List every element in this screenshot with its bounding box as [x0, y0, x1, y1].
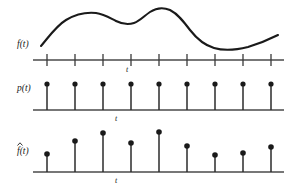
signal-label-fhat: f(t)	[17, 146, 29, 157]
impulse-stem	[100, 81, 105, 110]
axis-label-p: t	[115, 114, 118, 123]
impulse-stem	[240, 81, 245, 110]
impulse-stem	[156, 81, 161, 110]
sample-stem	[212, 152, 218, 172]
sample-stem	[268, 144, 274, 172]
axis-label-f: t	[126, 65, 129, 74]
waveform-curve-f	[41, 8, 278, 50]
signal-label-f: f(t)	[17, 39, 29, 50]
signal-label-p: p(t)	[16, 83, 31, 94]
sample-stem	[100, 130, 106, 172]
axis-label-fhat: t	[115, 176, 118, 185]
sampling-figure: f(t) t	[0, 0, 287, 195]
impulse-stem	[72, 81, 77, 110]
sample-stem	[72, 138, 78, 172]
sample-stem	[128, 140, 134, 172]
impulse-stem	[184, 81, 189, 110]
impulse-stem	[128, 81, 133, 110]
impulse-stem	[268, 81, 273, 110]
panel-fhat: f(t) t	[17, 129, 284, 185]
impulse-group-p	[44, 81, 273, 110]
panel-f: f(t) t	[17, 8, 284, 74]
sample-stem	[44, 151, 50, 172]
impulse-stem	[44, 81, 49, 110]
sample-stem	[156, 129, 162, 172]
sample-stem	[184, 143, 190, 172]
sample-group-fhat	[44, 129, 274, 172]
impulse-stem	[212, 81, 217, 110]
figure-canvas: f(t) t	[0, 0, 287, 195]
panel-p: p(t) t	[16, 81, 284, 123]
sample-stem	[240, 150, 246, 172]
